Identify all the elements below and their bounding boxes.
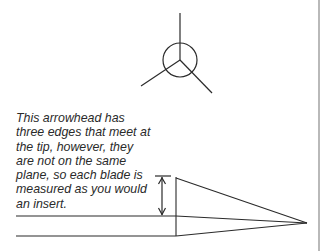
caption-line: plane, so each blade is xyxy=(16,168,166,182)
blade-lower-left xyxy=(141,60,180,86)
caption-line: This arrowhead has xyxy=(16,111,166,125)
caption-line: are not on the same xyxy=(16,154,166,168)
caption-line: an insert. xyxy=(16,197,166,211)
blade-middle-edge xyxy=(176,216,307,223)
caption-line: the tip, however, they xyxy=(16,140,166,154)
blade-top-edge xyxy=(176,178,307,223)
caption-text: This arrowhead has three edges that meet… xyxy=(16,111,166,211)
caption-line: measured as you would xyxy=(16,182,166,196)
caption-line: three edges that meet at xyxy=(16,125,166,139)
arrowhead-end-view xyxy=(141,13,212,93)
blade-bottom-edge xyxy=(176,223,307,236)
